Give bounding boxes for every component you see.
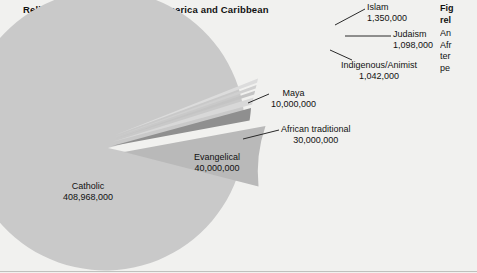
leader-line-islam — [335, 9, 365, 25]
slice-label-evangelical: Evangelical 40,000,000 — [194, 152, 240, 173]
slice-label-catholic-value: 408,968,000 — [63, 192, 113, 203]
caption-head-line-2: rel — [440, 15, 477, 27]
slice-label-judaism-name: Judaism — [393, 29, 433, 40]
pie-slice-catholic[interactable] — [0, 0, 244, 270]
slice-label-african-name: African traditional — [281, 124, 351, 135]
slice-label-maya-value: 10,000,000 — [271, 99, 316, 110]
figure-container: Religious affiliations in Latin America … — [0, 0, 477, 273]
caption-body-line-3: ter — [440, 51, 477, 63]
caption-body-line-2: Afr — [440, 40, 477, 52]
slice-label-catholic-name: Catholic — [63, 181, 113, 192]
figure-caption: Fig rel An Afr ter pe — [440, 3, 477, 74]
caption-body-line-1: An — [440, 28, 477, 40]
slice-label-catholic: Catholic 408,968,000 — [63, 181, 113, 202]
slice-label-african-value: 30,000,000 — [281, 135, 351, 146]
slice-label-islam-name: Islam — [367, 2, 407, 13]
slice-label-african-traditional: African traditional 30,000,000 — [281, 124, 351, 145]
slice-label-maya: Maya 10,000,000 — [271, 88, 316, 109]
leader-line-indigenous — [330, 50, 352, 60]
slice-label-judaism: Judaism 1,098,000 — [393, 29, 433, 50]
slice-label-islam-value: 1,350,000 — [367, 13, 407, 24]
slice-label-indigenous-value: 1,042,000 — [341, 71, 417, 82]
slice-label-maya-name: Maya — [271, 88, 316, 99]
slice-label-indigenous-name: Indigenous/Animist — [341, 60, 417, 71]
slice-label-judaism-value: 1,098,000 — [393, 40, 433, 51]
slice-label-islam: Islam 1,350,000 — [367, 2, 407, 23]
caption-head-line-1: Fig — [440, 3, 477, 15]
caption-body-line-4: pe — [440, 63, 477, 75]
slice-label-indigenous-animist: Indigenous/Animist 1,042,000 — [341, 60, 417, 81]
slice-label-evangelical-name: Evangelical — [194, 152, 240, 163]
page-bottom-rule — [0, 271, 477, 272]
slice-label-evangelical-value: 40,000,000 — [194, 163, 240, 174]
